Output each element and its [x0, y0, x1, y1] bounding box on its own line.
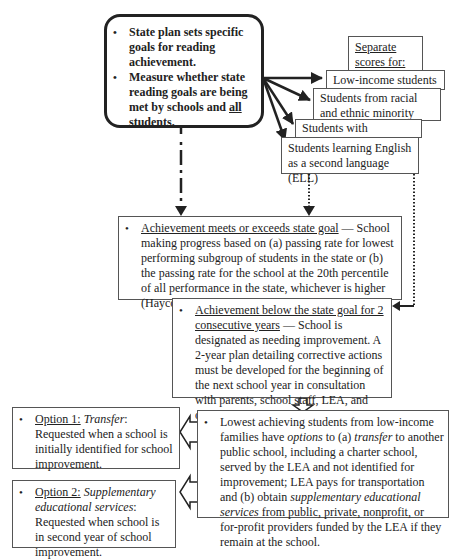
- student-options-text: Lowest achieving students from low-incom…: [198, 415, 444, 550]
- student-options-box: Lowest achieving students from low-incom…: [197, 410, 449, 518]
- meets-goal-box: Achievement meets or exceeds state goal …: [118, 216, 402, 300]
- below-goal-text: Achievement below the state goal for 2 c…: [173, 303, 387, 423]
- state-plan-box: State plan sets specific goals for readi…: [104, 14, 264, 128]
- option-1-box: Option 1: Transfer: Requested when a sch…: [12, 407, 180, 469]
- state-plan-bullet-2: Measure whether state reading goals are …: [107, 70, 255, 130]
- subgroup-minority: Students from racial and ethnic minority…: [313, 88, 441, 121]
- option-2-text: Option 2: Supplementary educational serv…: [13, 485, 171, 559]
- below-goal-box: Achievement below the state goal for 2 c…: [172, 298, 392, 398]
- option-1-text: Option 1: Transfer: Requested when a sch…: [13, 412, 175, 472]
- option-2-box: Option 2: Supplementary educational serv…: [12, 480, 176, 548]
- subgroup-ell: Students learning English as a second la…: [281, 137, 419, 174]
- state-plan-bullet-1: State plan sets specific goals for readi…: [107, 25, 255, 70]
- subgroup-disabilities: Students with disabilities: [295, 119, 422, 138]
- subgroup-low-income: Low-income students: [326, 70, 445, 90]
